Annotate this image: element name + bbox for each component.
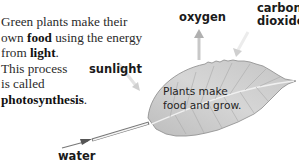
leaf-caption-line2: food and grow. bbox=[163, 98, 241, 112]
label-carbon-dioxide-line2: dioxide bbox=[257, 15, 299, 28]
intro-text: own bbox=[1, 30, 27, 45]
leaf-caption-line1: Plants make bbox=[163, 84, 241, 98]
intro-text: . bbox=[56, 45, 59, 60]
label-oxygen: oxygen bbox=[179, 11, 226, 24]
water-arrow bbox=[62, 123, 149, 148]
label-carbon-dioxide: carbon dioxide bbox=[257, 2, 299, 28]
intro-line: Green plants make their bbox=[1, 14, 127, 29]
intro-line: This process bbox=[1, 61, 67, 76]
label-sunlight: sunlight bbox=[89, 63, 142, 76]
intro-text: from bbox=[1, 45, 30, 60]
intro-text: using the energy bbox=[52, 30, 142, 45]
intro-text: . bbox=[84, 92, 87, 107]
keyword-photosynthesis: photosynthesis bbox=[1, 92, 84, 107]
intro-paragraph: Green plants make their own food using t… bbox=[1, 14, 161, 107]
keyword-light: light bbox=[30, 45, 56, 60]
carbon-dioxide-arrow bbox=[233, 32, 248, 57]
keyword-food: food bbox=[27, 30, 52, 45]
label-water: water bbox=[58, 150, 95, 163]
oxygen-arrow bbox=[194, 29, 204, 60]
leaf-caption: Plants make food and grow. bbox=[163, 84, 241, 112]
intro-line: is called bbox=[1, 76, 45, 91]
